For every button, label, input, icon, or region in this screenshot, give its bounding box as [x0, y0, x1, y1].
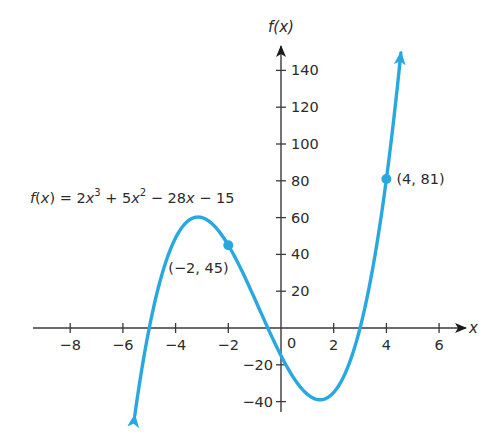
- y-tick-label: 40: [291, 246, 309, 262]
- y-tick-label: 20: [291, 283, 309, 299]
- function-equation: f(x) = 2x3 + 5x2 − 28x − 15: [30, 187, 234, 206]
- y-tick-label: 120: [291, 99, 319, 115]
- y-tick-label: −40: [242, 394, 273, 410]
- x-tick-label: −6: [112, 337, 133, 353]
- y-tick-label: 140: [291, 62, 319, 78]
- point-label: (4, 81): [396, 171, 444, 187]
- origin-label: 0: [287, 335, 296, 351]
- x-tick-label: −8: [60, 337, 81, 353]
- y-tick-label: −20: [242, 357, 273, 373]
- function-graph: −8−6−4−2246 14012010080604020−20−40 0 x …: [0, 0, 499, 433]
- y-tick-label: 100: [291, 136, 319, 152]
- x-axis-title: x: [468, 319, 478, 337]
- x-tick-label: −2: [218, 337, 239, 353]
- point-marker: [223, 240, 233, 250]
- y-tick-label: 80: [291, 173, 309, 189]
- y-tick-label: 60: [291, 210, 309, 226]
- y-axis-title: f(x): [268, 18, 294, 36]
- x-tick-label: 2: [329, 337, 338, 353]
- point-marker: [381, 174, 391, 184]
- x-tick-label: −4: [165, 337, 186, 353]
- x-tick-label: 4: [382, 337, 391, 353]
- point-label: (−2, 45): [168, 260, 228, 276]
- x-tick-label: 6: [434, 337, 443, 353]
